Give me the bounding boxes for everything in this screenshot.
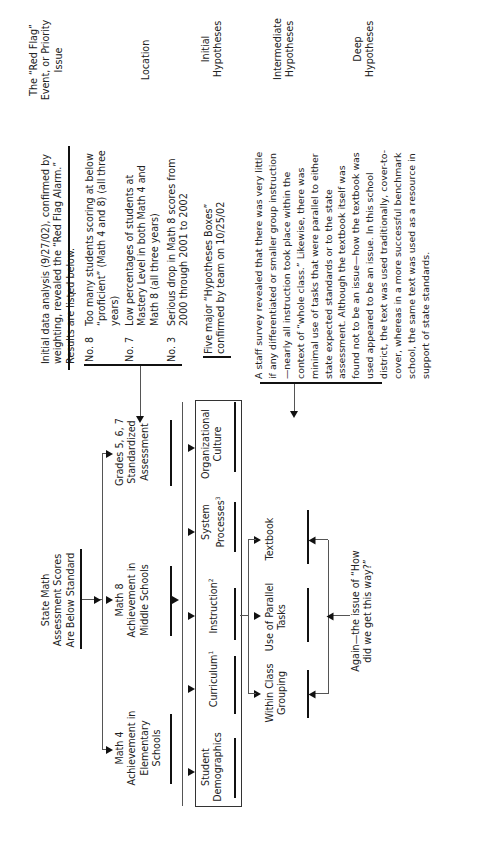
arrow-down-icon <box>188 685 195 693</box>
survey-arrow-line <box>294 384 295 412</box>
connector <box>314 539 328 540</box>
tree-root: State Math Assessment Scores Are Below S… <box>40 550 77 650</box>
arrow-down-icon <box>254 690 261 698</box>
label-intermediate-hypotheses: Intermediate Hypotheses <box>272 4 297 94</box>
arrow-down-icon <box>254 612 261 620</box>
intermediate-within-class-grouping: Within Class Grouping <box>264 658 289 728</box>
arrow-up-icon <box>327 613 334 621</box>
intermediate-underline <box>307 588 309 642</box>
connector <box>70 293 76 294</box>
label-location: Location <box>140 10 152 110</box>
label: System Processes <box>200 500 227 547</box>
footnote: 3 <box>214 496 221 500</box>
hypothesis-student-demographics: Student Demographics <box>200 732 225 802</box>
connector <box>182 402 183 806</box>
arrow-up-icon <box>309 691 316 699</box>
connector <box>248 693 256 694</box>
hypothesis-instruction: Instruction2 <box>205 566 221 646</box>
location-grades-567: Grades 5, 6, 7 Standardized Assessment <box>114 410 151 494</box>
rank-label: No. 7 <box>124 326 136 362</box>
label: Curriculum <box>208 655 219 708</box>
connector <box>240 615 248 616</box>
survey-bar <box>260 382 382 384</box>
label-initial-hypotheses: Initial Hypotheses <box>200 14 225 84</box>
arrow-down-icon <box>106 450 113 458</box>
hyp-underline <box>234 738 236 798</box>
connector <box>140 366 141 418</box>
rank-text: Low percentages of students at Mastery L… <box>124 144 161 326</box>
arrow-down-icon <box>188 444 195 452</box>
arrow-left-icon <box>136 416 144 423</box>
rank-label: No. 8 <box>84 326 96 362</box>
hypothesis-system-processes: System Processes3 <box>200 482 228 562</box>
deep-note: Again—the issue of “How did we get this … <box>350 546 375 676</box>
red-flag-intro: Initial data analysis (9/27/02), confirm… <box>40 139 77 364</box>
hypothesis-curriculum: Curriculum1 <box>205 639 221 719</box>
rank-text: Serious drop in Math 8 scores from 2000 … <box>166 144 191 326</box>
arrow-left-icon <box>290 411 298 418</box>
arrow-down-icon <box>172 596 179 604</box>
label: Instruction <box>208 582 219 633</box>
intermediate-textbook: Textbook <box>264 504 276 574</box>
location-math4: Math 4 Achievement in Elementary Schools <box>114 706 164 790</box>
hyp-underline <box>234 588 236 640</box>
arrow-down-icon <box>188 528 195 536</box>
underline <box>68 146 70 370</box>
arrow-down-icon <box>254 536 261 544</box>
rank-text: Too many students scoring at below “prof… <box>84 144 121 326</box>
hypotheses-note: Five major “Hypotheses Boxes” confirmed … <box>203 184 228 354</box>
label-deep-hypotheses: Deep Hypotheses <box>352 14 377 84</box>
survey-paragraph: A staff survey revealed that there was v… <box>252 147 433 379</box>
connector <box>248 539 256 540</box>
arrow-down-icon <box>188 612 195 620</box>
location-math8: Math 8 Achievement in Middle Schools <box>114 558 151 642</box>
hyp-underline <box>234 656 236 714</box>
footnote: 2 <box>207 578 214 582</box>
connector <box>314 693 328 694</box>
note-bar <box>203 356 231 358</box>
connector <box>248 540 249 694</box>
arrow-down-icon <box>188 768 195 776</box>
connector <box>102 454 103 750</box>
location-underline <box>170 714 172 784</box>
arrow-down-icon <box>94 596 101 604</box>
footnote: 1 <box>207 651 214 655</box>
arrow-up-icon <box>309 537 316 545</box>
hypothesis-organizational-culture: Organizational Culture <box>200 402 225 486</box>
label-red-flag: The “Red Flag” Event, or Priority Issue <box>28 10 65 110</box>
intermediate-parallel-tasks: Use of Parallel Tasks <box>264 582 289 652</box>
rank-label: No. 3 <box>166 326 178 362</box>
arrow-down-icon <box>106 746 113 754</box>
arrow-down-icon <box>106 596 113 604</box>
root-cause-diagram: The “Red Flag” Event, or Priority Issue … <box>0 0 480 854</box>
location-underline <box>170 420 172 486</box>
rank-bracket <box>84 364 182 366</box>
hyp-underline <box>234 402 236 472</box>
hyp-underline <box>234 502 236 552</box>
